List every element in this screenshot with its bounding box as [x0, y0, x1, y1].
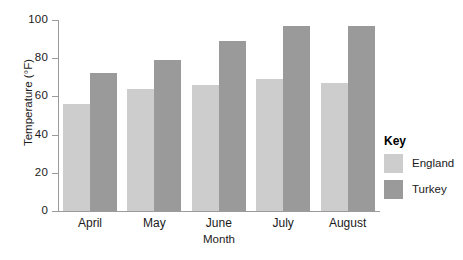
bar-turkey-june — [219, 41, 246, 211]
y-axis-tick-label: 80 — [35, 52, 48, 64]
x-axis-title: Month — [58, 233, 380, 246]
plot-area — [58, 20, 380, 211]
bar-group — [321, 20, 375, 211]
bar-group — [256, 20, 310, 211]
legend-item-england: England — [384, 152, 463, 174]
y-axis-tick-label: 60 — [35, 90, 48, 102]
bar-turkey-may — [154, 60, 181, 211]
x-axis-line — [58, 211, 380, 212]
legend-label-turkey: Turkey — [412, 183, 447, 196]
bar-england-june — [192, 85, 219, 211]
y-axis-tick-label: 100 — [28, 14, 48, 26]
x-axis-tick-label-august: August — [308, 216, 388, 230]
y-axis-tick — [52, 211, 58, 212]
bar-group — [63, 20, 117, 211]
y-axis-title: Temperature (°F) — [22, 38, 35, 168]
bar-group — [127, 20, 181, 211]
bar-england-august — [321, 83, 348, 211]
bar-england-may — [127, 89, 154, 211]
legend-item-turkey: Turkey — [384, 178, 463, 200]
legend-entries: EnglandTurkey — [384, 152, 463, 200]
bar-england-july — [256, 79, 283, 211]
y-axis-tick-label: 40 — [35, 129, 48, 141]
y-axis-tick-label: 0 — [41, 205, 48, 217]
bar-turkey-july — [283, 26, 310, 211]
legend-label-england: England — [412, 157, 454, 170]
bar-turkey-august — [348, 26, 375, 211]
legend: Key EnglandTurkey — [384, 134, 463, 204]
bar-group — [192, 20, 246, 211]
legend-swatch-turkey — [384, 180, 403, 199]
bar-chart-figure: 020406080100 AprilMayJuneJulyAugust Mont… — [0, 0, 463, 260]
legend-title: Key — [384, 134, 463, 148]
legend-swatch-england — [384, 154, 403, 173]
y-axis-tick-label: 20 — [35, 167, 48, 179]
bar-england-april — [63, 104, 90, 211]
bar-turkey-april — [90, 73, 117, 211]
